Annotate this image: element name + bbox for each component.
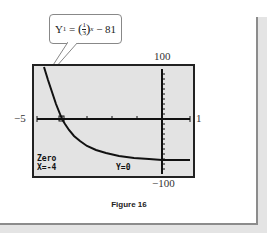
figure-caption: Figure 16: [0, 200, 258, 209]
calculator-screen: Zero X=-4 Y=0: [32, 64, 195, 178]
ymax-label: 100: [154, 50, 171, 62]
graph-plot: [34, 66, 193, 176]
calc-line-zero: Zero: [37, 155, 56, 163]
ymin-label: −100: [152, 177, 175, 189]
calc-line-y: Y=0: [116, 164, 130, 172]
xmin-label: −5: [14, 112, 26, 124]
calc-line-x: X=-4: [37, 164, 56, 172]
xmax-label: 1: [196, 112, 202, 124]
